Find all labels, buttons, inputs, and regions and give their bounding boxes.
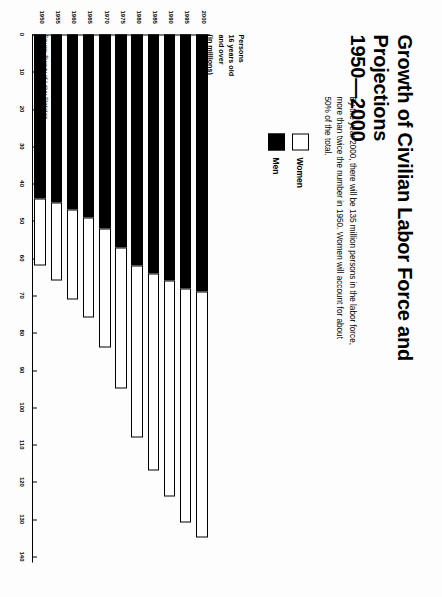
axis-tick-label: 10 bbox=[19, 68, 25, 75]
bar-row bbox=[99, 34, 111, 562]
axis-tick-label: 140 bbox=[19, 551, 25, 561]
bar-segment-women bbox=[131, 265, 143, 437]
category-label: 1995 bbox=[184, 10, 190, 23]
bar-row bbox=[131, 34, 143, 562]
chart-legend: Women Men bbox=[261, 133, 309, 188]
axis-tick-label: 40 bbox=[19, 180, 25, 187]
legend-swatch-men bbox=[268, 133, 285, 150]
category-label: 1955 bbox=[55, 10, 61, 23]
category-label: 1990 bbox=[168, 10, 174, 23]
bar-segment-men bbox=[196, 34, 208, 291]
y-axis-caption: Persons 16 years old and over (in millio… bbox=[205, 34, 246, 114]
bar-row bbox=[164, 34, 176, 562]
bar-segment-women bbox=[164, 280, 176, 496]
category-label: 1960 bbox=[71, 10, 77, 23]
bar-segment-men bbox=[83, 34, 95, 217]
bar-segment-men bbox=[67, 34, 79, 209]
category-label: 1950 bbox=[39, 10, 45, 23]
bar-row bbox=[51, 34, 63, 562]
axis-tick-label: 80 bbox=[19, 329, 25, 336]
bar-segment-men bbox=[99, 34, 111, 228]
legend-swatch-women bbox=[292, 133, 309, 150]
axis-tick-label: 130 bbox=[19, 514, 25, 524]
category-label: 2000 bbox=[201, 10, 207, 23]
category-label: 1965 bbox=[87, 10, 93, 23]
bar-segment-men bbox=[180, 34, 192, 288]
bar-segment-men bbox=[164, 34, 176, 280]
y-axis-caption-line-1: Persons bbox=[236, 34, 246, 114]
axis-tick-label: 90 bbox=[19, 366, 25, 373]
bar-segment-women bbox=[67, 209, 79, 298]
legend-label-men: Men bbox=[272, 157, 282, 174]
bar-row bbox=[196, 34, 208, 562]
y-axis-caption-line-2: 16 years old bbox=[226, 34, 236, 114]
bar-segment-men bbox=[115, 34, 127, 247]
axis-tick-label: 20 bbox=[19, 105, 25, 112]
axis-tick-label: 50 bbox=[19, 217, 25, 224]
title-line-1: Growth of Civilian Labor Force and Proje… bbox=[370, 34, 416, 361]
legend-label-women: Women bbox=[296, 157, 306, 188]
plot-area: 0102030405060708090100110120130140 19501… bbox=[32, 34, 210, 562]
axis-tick-label: 100 bbox=[19, 402, 25, 412]
axis-tick-label: 70 bbox=[19, 292, 25, 299]
bar-row bbox=[34, 34, 46, 562]
bar-row bbox=[180, 34, 192, 562]
axis-tick-label: 120 bbox=[19, 476, 25, 486]
bar-segment-women bbox=[99, 228, 111, 347]
category-label: 1985 bbox=[152, 10, 158, 23]
bar-row bbox=[67, 34, 79, 562]
bar-segment-men bbox=[34, 34, 46, 198]
bar-segment-women bbox=[34, 198, 46, 265]
bar-segment-men bbox=[131, 34, 143, 265]
bar-segment-women bbox=[180, 288, 192, 523]
legend-item-men: Men bbox=[268, 133, 285, 188]
legend-item-women: Women bbox=[292, 133, 309, 188]
category-label: 1980 bbox=[136, 10, 142, 23]
bar-segment-men bbox=[148, 34, 160, 273]
category-label: 1970 bbox=[104, 10, 110, 23]
axis-tick-label: 30 bbox=[19, 143, 25, 150]
bar-row bbox=[83, 34, 95, 562]
bar-row bbox=[148, 34, 160, 562]
bar-segment-women bbox=[83, 217, 95, 318]
bar-segment-men bbox=[51, 34, 63, 202]
bar-row bbox=[115, 34, 127, 562]
category-label: 1975 bbox=[120, 10, 126, 23]
chart-subtitle: By the year 2000, there will be 135 mill… bbox=[320, 96, 358, 346]
axis-tick-label: 0 bbox=[19, 32, 25, 35]
bar-segment-women bbox=[115, 247, 127, 389]
y-axis-caption-line-3: and over bbox=[215, 34, 225, 114]
axis-tick-label: 110 bbox=[19, 439, 25, 449]
chart-figure: Growth of Civilian Labor Force and Proje… bbox=[0, 0, 442, 597]
bar-segment-women bbox=[148, 273, 160, 471]
bar-segment-women bbox=[196, 291, 208, 537]
axis-tick-label: 60 bbox=[19, 254, 25, 261]
chart-page: Growth of Civilian Labor Force and Proje… bbox=[0, 0, 442, 597]
bar-segment-women bbox=[51, 202, 63, 280]
